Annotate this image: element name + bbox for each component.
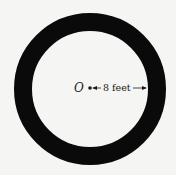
diagram-svg: O 8 feet (0, 0, 176, 175)
center-point (88, 86, 92, 90)
center-label: O (74, 81, 84, 95)
radius-label: 8 feet (103, 82, 131, 93)
circle-diagram: O 8 feet (0, 0, 176, 175)
